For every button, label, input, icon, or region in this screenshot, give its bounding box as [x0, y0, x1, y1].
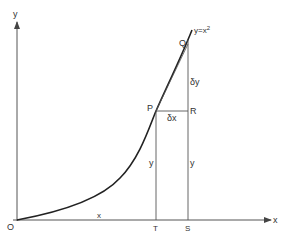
parabola-curve [17, 30, 192, 220]
point-t-label: T [153, 224, 158, 233]
derivative-diagram: y x O y=x2 Q P R T S δy δx y y x [0, 0, 281, 237]
x-segment-label: x [97, 211, 101, 220]
delta-y-label: δy [190, 77, 200, 87]
origin-label: O [7, 222, 14, 232]
point-s-label: S [185, 224, 190, 233]
point-q-label: Q [179, 38, 186, 48]
point-p-label: P [147, 103, 153, 113]
chord-pq [156, 44, 188, 111]
y-axis-label: y [13, 9, 18, 19]
curve-equation-label: y=x2 [194, 25, 211, 35]
y-at-t-label: y [149, 158, 154, 168]
y-at-s-label: y [190, 158, 195, 168]
delta-x-label: δx [167, 113, 177, 123]
point-r-label: R [190, 106, 197, 116]
x-axis-label: x [273, 215, 278, 225]
